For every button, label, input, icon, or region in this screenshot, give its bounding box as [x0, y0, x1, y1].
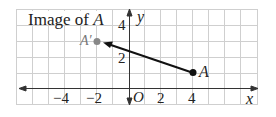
- x-tick-4: 4: [188, 91, 196, 106]
- y-axis-down-arrow-icon: [127, 98, 132, 105]
- arrow-head-icon: [103, 42, 113, 49]
- origin-label: O: [133, 90, 144, 105]
- x-tick-2: 2: [157, 91, 165, 106]
- point-A: [190, 69, 197, 76]
- point-A-prime-label: A′: [80, 34, 92, 48]
- x-tick-neg4: −4: [53, 91, 69, 106]
- y-axis-up-arrow-icon: [127, 9, 132, 16]
- x-axis-label: x: [246, 91, 253, 107]
- x-axis-left-arrow-icon: [19, 86, 26, 91]
- point-A-prime: [94, 38, 101, 45]
- y-axis-label: y: [137, 9, 144, 25]
- x-tick-neg2: −2: [86, 91, 102, 106]
- y-tick-2: 2: [118, 51, 126, 66]
- y-tick-4: 4: [118, 18, 126, 33]
- point-A-label: A: [199, 64, 209, 80]
- graph-title: Image of A: [28, 11, 104, 28]
